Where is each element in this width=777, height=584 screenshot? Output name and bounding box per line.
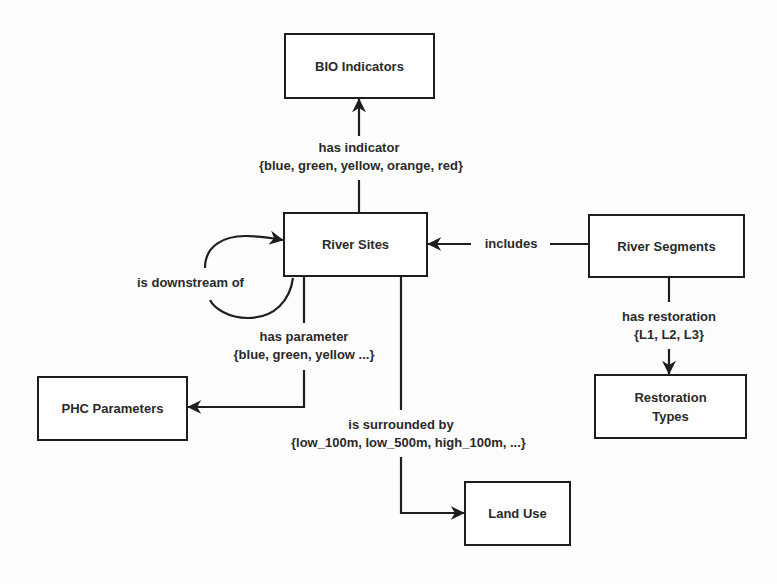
edge-label-values: {low_100m, low_500m, high_100m, ...} — [291, 434, 511, 452]
edge-label-text: includes — [473, 235, 549, 253]
edge-label-values: {blue, green, yellow ...} — [222, 346, 386, 364]
node-land-use: Land Use — [464, 481, 571, 546]
node-label: BIO Indicators — [315, 57, 404, 76]
edge-has-parameter-bottom — [188, 370, 304, 407]
edge-label-values: {L1, L2, L3} — [604, 326, 734, 344]
er-diagram: BIO Indicators River Sites River Segment… — [0, 0, 777, 584]
edge-label-text: is surrounded by — [291, 416, 511, 434]
node-label-line1: Restoration — [634, 388, 706, 407]
node-label: Land Use — [488, 504, 547, 523]
edge-label-text: is downstream of — [137, 274, 277, 292]
node-phc-parameters: PHC Parameters — [37, 376, 188, 441]
edge-label-has-parameter: has parameter {blue, green, yellow ...} — [222, 328, 386, 364]
node-label-line2: Types — [652, 407, 689, 426]
edge-label-downstream: is downstream of — [137, 274, 277, 292]
edge-label-has-indicator: has indicator {blue, green, yellow, oran… — [259, 139, 459, 175]
edge-downstream-upper — [205, 236, 283, 268]
edge-label-text: has parameter — [222, 328, 386, 346]
edge-label-text: has restoration — [604, 308, 734, 326]
node-label: River Sites — [322, 235, 389, 254]
edge-surrounded-bottom — [401, 457, 464, 513]
edge-label-includes: includes — [473, 235, 549, 253]
edge-label-text: has indicator — [259, 139, 459, 157]
node-label: PHC Parameters — [62, 399, 164, 418]
edge-label-has-restoration: has restoration {L1, L2, L3} — [604, 308, 734, 344]
node-label: River Segments — [617, 237, 715, 256]
node-river-sites: River Sites — [283, 212, 428, 277]
edge-label-surrounded: is surrounded by {low_100m, low_500m, hi… — [291, 416, 511, 452]
node-restoration-types: Restoration Types — [594, 374, 747, 439]
node-river-segments: River Segments — [588, 214, 745, 278]
edge-label-values: {blue, green, yellow, orange, red} — [259, 157, 459, 175]
node-bio-indicators: BIO Indicators — [284, 33, 435, 99]
